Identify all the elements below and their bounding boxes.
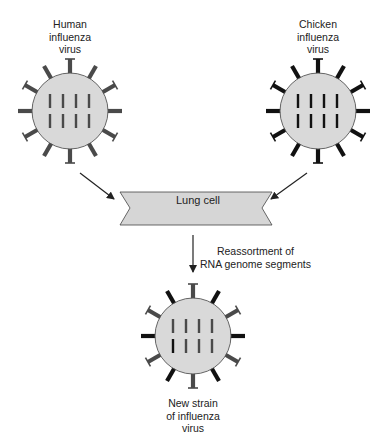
virus-envelope xyxy=(155,298,231,374)
reassortment-line-2: RNA genome segments xyxy=(200,258,311,271)
spike-icon xyxy=(89,143,97,156)
human-virus-icon xyxy=(18,59,122,163)
spike-icon xyxy=(89,66,97,79)
lung-cell-label: Lung cell xyxy=(118,193,278,207)
spike-icon xyxy=(167,291,175,304)
spike-icon xyxy=(292,143,300,156)
chicken-label-line-3: virus xyxy=(283,43,353,56)
new-strain-line-1: New strain xyxy=(148,397,238,410)
spike-icon xyxy=(22,81,37,93)
spike-icon xyxy=(225,306,240,318)
spike-icon xyxy=(313,148,323,163)
spike-icon xyxy=(350,130,365,142)
human-label-line-3: virus xyxy=(35,43,105,56)
spike-icon xyxy=(188,373,198,388)
spike-icon xyxy=(212,368,220,381)
diagram-canvas xyxy=(0,0,384,444)
chicken-virus-icon xyxy=(266,59,370,163)
virus-envelope xyxy=(32,73,108,149)
spike-icon xyxy=(270,130,285,142)
human-virus-label: Human influenza virus xyxy=(35,18,105,56)
spike-icon xyxy=(225,355,240,367)
spike-icon xyxy=(313,59,323,74)
new-strain-line-3: virus xyxy=(148,422,238,435)
reassortment-line-1: Reassortment of xyxy=(200,245,311,258)
spike-icon xyxy=(102,81,117,93)
spike-icon xyxy=(292,66,300,79)
spike-icon xyxy=(145,306,160,318)
virus-envelope xyxy=(280,73,356,149)
spike-icon xyxy=(65,59,75,74)
spike-icon xyxy=(65,148,75,163)
new-strain-virus-icon xyxy=(141,284,245,388)
new-strain-line-2: of influenza xyxy=(148,410,238,423)
spike-icon xyxy=(22,130,37,142)
spike-icon xyxy=(212,291,220,304)
spike-icon xyxy=(337,66,345,79)
spike-icon xyxy=(145,355,160,367)
chicken-label-line-1: Chicken xyxy=(283,18,353,31)
human-label-line-2: influenza xyxy=(35,31,105,44)
spike-icon xyxy=(270,81,285,93)
spike-icon xyxy=(44,143,52,156)
new-strain-label: New strain of influenza virus xyxy=(148,397,238,435)
arrow-human-to-lung-cell xyxy=(80,173,114,199)
chicken-virus-label: Chicken influenza virus xyxy=(283,18,353,56)
human-label-line-1: Human xyxy=(35,18,105,31)
spike-icon xyxy=(167,368,175,381)
spike-icon xyxy=(44,66,52,79)
spike-icon xyxy=(337,143,345,156)
spike-icon xyxy=(350,81,365,93)
chicken-label-line-2: influenza xyxy=(283,31,353,44)
spike-icon xyxy=(188,284,198,299)
spike-icon xyxy=(102,130,117,142)
reassortment-label: Reassortment of RNA genome segments xyxy=(200,245,311,271)
